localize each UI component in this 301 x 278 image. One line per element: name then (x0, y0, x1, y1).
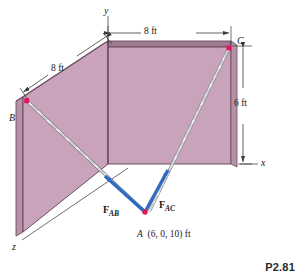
node-a-marker (142, 209, 147, 214)
point-b-label: B (9, 113, 15, 123)
point-a-coordinates: (6, 0, 10) ft (148, 229, 191, 239)
force-ab-subscript: AB (109, 209, 119, 218)
node-b-marker (24, 98, 29, 103)
dimension-right-label: 6 ft (234, 99, 247, 109)
node-c-marker (226, 45, 231, 50)
dimension-left-label: 8 ft (51, 64, 64, 74)
point-a-annotation: A (6, 0, 10) ft (137, 230, 191, 240)
x-axis-label: x (261, 158, 265, 168)
point-a-label: A (137, 229, 143, 239)
dimension-top-label: 8 ft (144, 27, 157, 37)
point-c-label: C (237, 36, 244, 46)
z-axis-label: z (12, 242, 16, 252)
y-axis-label: y (104, 6, 108, 16)
problem-number-label: P2.81 (265, 261, 295, 273)
force-ac-subscript: AC (165, 204, 175, 213)
force-ac-label: FAC (159, 200, 175, 213)
right-wall-panel (108, 41, 237, 167)
force-ab-label: FAB (103, 205, 119, 218)
problem-figure: y x z B C 8 ft 8 ft 6 ft FAB FAC A (6, 0… (0, 0, 301, 278)
